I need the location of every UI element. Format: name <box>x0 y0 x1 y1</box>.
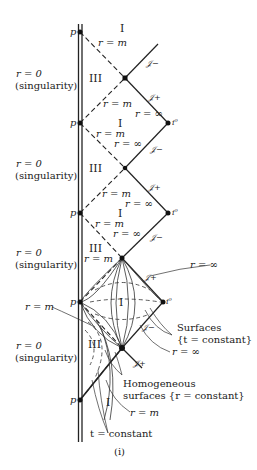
r-m-label: r = m <box>98 37 127 48</box>
scri-minus-label: 𝒥− <box>142 322 155 333</box>
r-inf-label: r = ∞ <box>172 346 200 357</box>
region-III-label: III <box>89 73 102 84</box>
scri-minus-label: 𝒥− <box>150 232 163 243</box>
surfaces-t-constant-label: {t = constant} <box>177 334 252 345</box>
r-0-label: r = 0 <box>16 158 42 169</box>
surfaces-label: Surfaces <box>177 322 221 333</box>
scri-plus-label: 𝒥+ <box>133 358 146 369</box>
singularity-label: (singularity) <box>15 170 77 181</box>
i0-label: i⁰ <box>172 117 178 128</box>
scri-plus-label: 𝒥+ <box>148 92 161 103</box>
region-I-label: I <box>106 397 110 408</box>
singularity-label: (singularity) <box>15 80 77 91</box>
singularity-label: (singularity) <box>15 352 77 363</box>
homogeneous-r-constant-label: surfaces {r = constant} <box>123 390 245 401</box>
r-inf-label: r = ∞ <box>190 259 218 270</box>
t-constant-label: t = constant <box>90 428 152 439</box>
r-0-label: r = 0 <box>16 68 42 79</box>
r-m-label: r = m <box>84 253 113 264</box>
r-0-label: r = 0 <box>16 247 42 258</box>
p-label: p <box>70 207 76 218</box>
scri-minus-label: 𝒥− <box>150 144 163 155</box>
singularity-label: (singularity) <box>15 259 77 270</box>
region-I-label: I <box>119 297 123 308</box>
figure-caption: (i) <box>114 446 125 457</box>
scri-minus-label: 𝒥− <box>146 58 159 69</box>
r-m-label: r = m <box>103 98 132 109</box>
homogeneous-label: Homogeneous <box>123 378 196 389</box>
p-label: p <box>70 26 76 37</box>
r-inf-label: r = ∞ <box>113 228 141 239</box>
r-m-label: r = m <box>130 407 159 418</box>
region-III-label: III <box>88 339 101 350</box>
r-m-label: r = m <box>25 301 54 312</box>
region-III-label: III <box>89 163 102 174</box>
region-I-label: I <box>120 23 124 34</box>
r-0-label: r = 0 <box>16 340 42 351</box>
p-label: p <box>70 296 76 307</box>
r-inf-label: r = ∞ <box>114 138 142 149</box>
scri-plus-label: 𝒥+ <box>148 182 161 193</box>
i0-label: i⁰ <box>172 207 178 218</box>
r-inf-label: r = ∞ <box>125 198 153 209</box>
scri-plus-label: 𝒥+ <box>144 272 157 283</box>
i0-label: i⁰ <box>166 296 172 307</box>
r-inf-label: r = ∞ <box>135 108 163 119</box>
p-label: p <box>70 117 76 128</box>
p-label: p <box>70 394 76 405</box>
